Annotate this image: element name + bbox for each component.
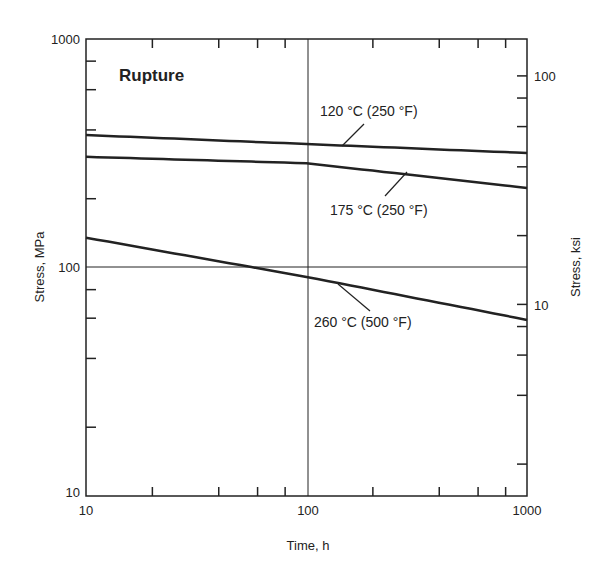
- leader-175c: [385, 172, 407, 196]
- series-120c-line: [86, 135, 527, 153]
- series-260c-line: [86, 238, 527, 320]
- x-tick-1000: 1000: [513, 503, 542, 518]
- y-tick-10: 10: [66, 485, 80, 500]
- x-axis-label: Time, h: [287, 538, 330, 553]
- chart-container: Rupture 120 °C (250 °F) 175 °C (250 °F) …: [0, 0, 609, 570]
- y-axis-label: Stress, MPa: [32, 231, 47, 303]
- x-tick-100: 100: [297, 503, 319, 518]
- y-axis-label-right: Stress, ksi: [568, 237, 583, 297]
- chart-svg: Rupture 120 °C (250 °F) 175 °C (250 °F) …: [0, 0, 609, 570]
- chart-title: Rupture: [119, 66, 184, 85]
- series-175c-line: [86, 157, 527, 188]
- y-tick-1000: 1000: [51, 32, 80, 47]
- leader-120c: [342, 124, 364, 146]
- x-tick-10: 10: [79, 503, 93, 518]
- y-tick-100: 100: [58, 260, 80, 275]
- right-tick-100: 100: [534, 69, 556, 84]
- series-label-260c: 260 °C (500 °F): [314, 314, 412, 330]
- series-label-175c: 175 °C (250 °F): [330, 202, 428, 218]
- right-tick-10: 10: [534, 298, 548, 313]
- series-label-120c: 120 °C (250 °F): [320, 103, 418, 119]
